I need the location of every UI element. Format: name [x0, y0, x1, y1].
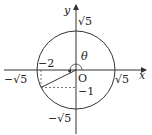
tick-y-neg: −√5 — [48, 112, 71, 125]
point-y-label: −1 — [78, 85, 94, 98]
diagram-canvas: y x O √5 √5 −√5 −√5 −2 −1 θ — [0, 0, 152, 135]
y-axis-label: y — [63, 4, 71, 17]
tick-x-pos: √5 — [115, 73, 129, 86]
angle-label: θ — [81, 50, 88, 63]
tick-y-pos: √5 — [78, 15, 92, 28]
x-axis-label: x — [139, 69, 146, 82]
tick-x-neg: −√5 — [4, 73, 27, 86]
point-x-label: −2 — [38, 57, 54, 70]
origin-label: O — [78, 72, 87, 85]
